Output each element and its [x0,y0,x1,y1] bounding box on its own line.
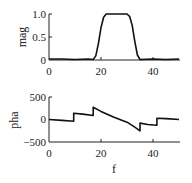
pha-xtick-20: 20 [96,147,108,159]
pha-series-line [49,107,179,131]
pha-ytick-0: 0 [41,113,47,125]
mag-xtick-0: 0 [46,65,52,77]
pha-ylabel: pha [7,111,21,129]
pha-xtick-40: 40 [148,147,160,159]
pha-ytick-neg500: −500 [23,136,46,148]
mag-plot: 1.0 0.5 0 0 20 40 mag [15,8,180,77]
figure: 1.0 0.5 0 0 20 40 mag 500 0 −500 0 20 40… [0,0,192,183]
mag-ytick-05: 0.5 [32,31,46,43]
xlabel: f [112,162,116,176]
mag-ylabel: mag [15,27,29,48]
pha-ytick-500: 500 [30,91,47,103]
mag-series-line [49,14,179,60]
mag-ytick-1: 1.0 [32,8,46,20]
mag-xtick-40: 40 [148,65,160,77]
pha-xtick-0: 0 [46,147,52,159]
mag-xtick-20: 20 [96,65,108,77]
pha-plot: 500 0 −500 0 20 40 pha f [7,91,180,176]
